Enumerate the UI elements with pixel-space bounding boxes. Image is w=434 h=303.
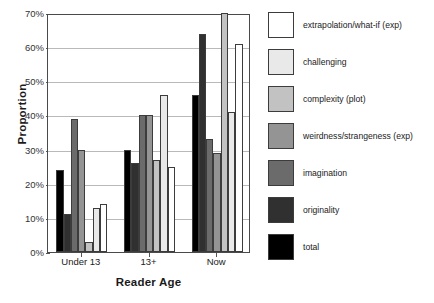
legend-swatch	[268, 86, 294, 112]
legend-item: originality	[268, 197, 432, 223]
plot-area	[47, 14, 250, 253]
bar	[124, 150, 131, 252]
y-axis-tick-label: 0%	[6, 248, 44, 258]
bar	[78, 150, 85, 252]
legend-label: imagination	[303, 168, 347, 178]
bar	[71, 119, 78, 252]
legend-item: total	[268, 234, 432, 260]
bar	[100, 204, 107, 252]
legend-item: imagination	[268, 160, 432, 186]
bar	[221, 13, 228, 252]
bar-chart-figure: Proportion 0%10%20%30%40%50%60%70% Under…	[0, 0, 434, 303]
x-axis-tick-mark	[81, 253, 82, 257]
bar-group	[56, 15, 107, 252]
bar	[206, 139, 213, 252]
bar	[85, 242, 92, 252]
bar	[64, 214, 71, 252]
bar	[56, 170, 63, 252]
bar	[235, 44, 242, 252]
legend-swatch	[268, 197, 294, 223]
legend-label: originality	[303, 205, 339, 215]
bar	[93, 208, 100, 252]
y-axis-tick-label: 60%	[6, 43, 44, 53]
bar-group	[124, 15, 175, 252]
bar-groups	[48, 15, 249, 252]
x-axis-tick-label: Now	[176, 256, 256, 267]
y-axis-tick-label: 50%	[6, 77, 44, 87]
legend-swatch	[268, 123, 294, 149]
y-axis-tick-label: 20%	[6, 180, 44, 190]
legend-label: total	[303, 242, 319, 252]
bar	[131, 163, 138, 252]
bar	[213, 153, 220, 252]
legend-label: challenging	[303, 57, 346, 67]
x-axis-tick-mark	[149, 253, 150, 257]
y-axis-tick-label: 40%	[6, 111, 44, 121]
legend-label: extrapolation/what-if (exp)	[303, 20, 402, 30]
legend-swatch	[268, 49, 294, 75]
bar	[146, 115, 153, 252]
legend-item: challenging	[268, 49, 432, 75]
legend-swatch	[268, 160, 294, 186]
bar	[153, 160, 160, 252]
legend-item: extrapolation/what-if (exp)	[268, 12, 432, 38]
bar	[139, 115, 146, 252]
x-axis-tick-mark	[216, 253, 217, 257]
legend-swatch	[268, 12, 294, 38]
x-axis-label: Reader Age	[47, 276, 250, 288]
bar	[192, 95, 199, 252]
legend-label: weirdness/strangeness (exp)	[303, 131, 413, 141]
legend-item: complexity (plot)	[268, 86, 432, 112]
y-axis-ticks: 0%10%20%30%40%50%60%70%	[2, 0, 44, 303]
bar-group	[192, 15, 243, 252]
legend: extrapolation/what-if (exp)challengingco…	[268, 12, 432, 260]
legend-label: complexity (plot)	[303, 94, 366, 104]
legend-swatch	[268, 234, 294, 260]
bar	[160, 95, 167, 252]
y-axis-tick-label: 70%	[6, 9, 44, 19]
legend-item: weirdness/strangeness (exp)	[268, 123, 432, 149]
bar	[199, 34, 206, 253]
y-axis-tick-label: 30%	[6, 146, 44, 156]
bar	[168, 167, 175, 252]
y-axis-tick-mark	[46, 253, 50, 254]
y-axis-tick-label: 10%	[6, 214, 44, 224]
bar	[228, 112, 235, 252]
